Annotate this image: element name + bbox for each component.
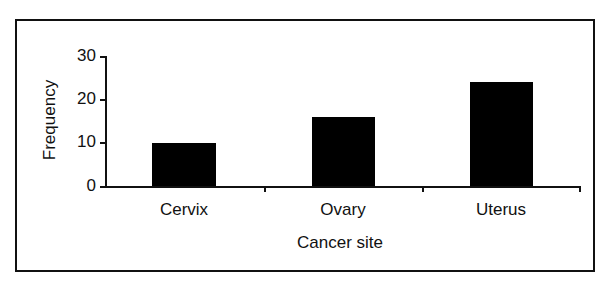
bar-uterus <box>470 82 533 186</box>
x-axis-title: Cancer site <box>240 233 440 253</box>
x-tick <box>579 186 581 192</box>
y-tick <box>100 99 106 101</box>
y-tick-label: 0 <box>66 177 96 194</box>
y-tick <box>100 142 106 144</box>
y-axis-line <box>105 56 107 187</box>
x-tick-label-cervix: Cervix <box>134 200 234 220</box>
x-tick <box>264 186 266 192</box>
y-tick <box>100 186 106 188</box>
y-axis-title: Frequency <box>40 65 60 175</box>
bar-ovary <box>312 117 375 186</box>
x-tick-label-ovary: Ovary <box>293 200 393 220</box>
y-tick <box>100 56 106 58</box>
x-tick <box>422 186 424 192</box>
x-axis-line <box>105 186 580 188</box>
y-tick-label: 10 <box>66 133 96 150</box>
x-tick-label-uterus: Uterus <box>451 200 551 220</box>
bar-cervix <box>152 143 216 186</box>
y-tick-label: 20 <box>66 90 96 107</box>
y-tick-label: 30 <box>66 47 96 64</box>
